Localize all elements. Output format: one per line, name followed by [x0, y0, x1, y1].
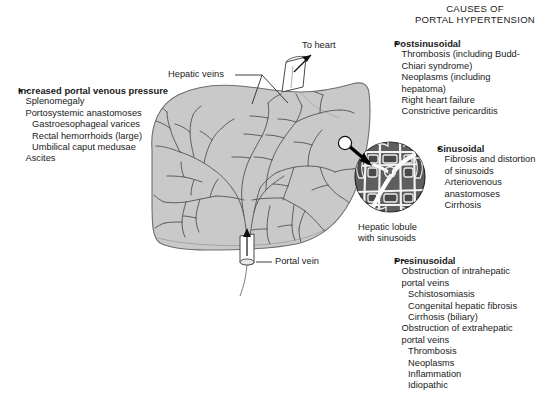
label-hepatic-lobule-line2: with sinusoids [358, 233, 453, 244]
list-item: Obstruction of extrahepatic [394, 323, 553, 334]
increased-portal-venous-pressure-panel: Increased portal venous pressure Splenom… [18, 85, 193, 165]
list-item: Idiopathic [394, 380, 553, 391]
list-item: Chiari syndrome) [394, 61, 553, 72]
sinusoidal-list: Fibrosis and distortionof sinusoidsArter… [437, 154, 553, 211]
left-panel-list: SplenomegalyPortosystemic anastomosesGas… [18, 96, 193, 164]
postsinusoidal-list: Thrombosis (including Budd-Chiari syndro… [394, 49, 553, 117]
label-portal-vein: Portal vein [275, 256, 319, 267]
postsinusoidal-heading: Postsinusoidal [394, 38, 553, 49]
list-item: hepatoma) [394, 84, 553, 95]
list-item: Schistosomiasis [394, 289, 553, 300]
presinusoidal-list: Obstruction of intrahepaticportal veinsS… [394, 266, 553, 391]
postsinusoidal-panel: Postsinusoidal Thrombosis (including Bud… [394, 38, 553, 118]
label-hepatic-lobule: Hepatic lobule with sinusoids [358, 222, 453, 245]
label-hepatic-lobule-line1: Hepatic lobule [358, 222, 453, 233]
list-item: anastomoses [437, 189, 553, 200]
sinusoidal-heading: Sinusoidal [437, 143, 553, 154]
list-item: Congenital hepatic fibrosis [394, 301, 553, 312]
label-hepatic-veins: Hepatic veins [168, 69, 224, 80]
list-item: Inflammation [394, 369, 553, 380]
list-item: portal veins [394, 335, 553, 346]
label-to-heart: To heart [302, 40, 336, 51]
list-item: of sinusoids [437, 166, 553, 177]
list-item: Ascites [18, 153, 193, 164]
list-item: Neoplasms (including [394, 72, 553, 83]
sinusoidal-panel: Sinusoidal Fibrosis and distortionof sin… [437, 143, 553, 211]
left-panel-heading: Increased portal venous pressure [18, 85, 193, 96]
list-item: Gastroesophageal varices [18, 119, 193, 130]
list-item: Neoplasms [394, 358, 553, 369]
list-item: Right heart failure [394, 95, 553, 106]
hepatic-vein-outlet [282, 55, 311, 92]
presinusoidal-panel: Presinusoidal Obstruction of intrahepati… [394, 255, 553, 392]
list-item: Splenomegaly [18, 96, 193, 107]
figure-title-line1: CAUSES OF [400, 3, 550, 14]
figure-title: CAUSES OF PORTAL HYPERTENSION [400, 3, 550, 26]
portal-vein-vessel [240, 228, 254, 296]
list-item: Thrombosis (including Budd- [394, 49, 553, 60]
list-item: Umbilical caput medusae [18, 142, 193, 153]
list-item: Constrictive pericarditis [394, 106, 553, 117]
presinusoidal-heading: Presinusoidal [394, 255, 553, 266]
list-item: Cirrhosis (biliary) [394, 312, 553, 323]
list-item: Fibrosis and distortion [437, 154, 553, 165]
list-item: Thrombosis [394, 346, 553, 357]
list-item: Obstruction of intrahepatic [394, 266, 553, 277]
list-item: Rectal hemorrhoids (large) [18, 131, 193, 142]
list-item: Cirrhosis [437, 200, 553, 211]
figure-title-line2: PORTAL HYPERTENSION [400, 14, 550, 25]
list-item: Portosystemic anastomoses [18, 108, 193, 119]
list-item: Arteriovenous [437, 177, 553, 188]
list-item: portal veins [394, 278, 553, 289]
